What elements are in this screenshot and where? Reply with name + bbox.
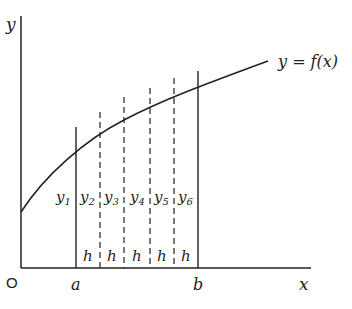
ordinate-label-y6: y6 [177, 188, 193, 207]
tick-label-b: b [193, 275, 203, 294]
y-axis-label: y [5, 14, 16, 34]
origin-label: O [6, 274, 18, 291]
diagram-canvas: y y = f(x) O a b x y1 y2 y3 y4 y5 y6 h h… [0, 0, 352, 309]
strip-label-h-3: h [132, 247, 142, 265]
strip-label-h-4: h [157, 247, 167, 265]
ordinate-label-y4: y4 [129, 188, 145, 207]
strip-label-h-1: h [83, 247, 93, 265]
ordinate-label-y5: y5 [153, 188, 169, 207]
curve-label: y = f(x) [277, 52, 338, 71]
ordinate-label-y1: y1 [55, 188, 71, 207]
ordinate-label-y2: y2 [79, 188, 95, 207]
tick-label-a: a [71, 275, 81, 294]
strip-label-h-5: h [181, 247, 191, 265]
ordinate-label-y3: y3 [103, 188, 119, 207]
strip-label-h-2: h [107, 247, 117, 265]
x-axis-label: x [299, 274, 309, 294]
